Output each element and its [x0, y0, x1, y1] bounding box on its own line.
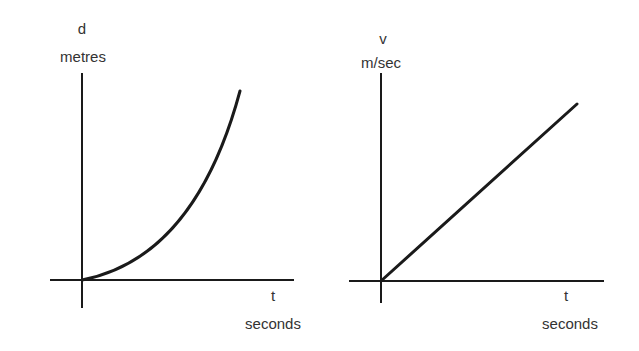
distance-time-chart [50, 73, 294, 308]
right-y-symbol-label: v [379, 31, 387, 46]
left-x-unit-label: seconds [245, 316, 301, 331]
velocity-time-chart [349, 73, 604, 303]
left-x-symbol-label: t [271, 288, 275, 303]
right-x-unit-label: seconds [542, 316, 598, 331]
distance-curve [82, 91, 240, 280]
left-y-unit-label: metres [60, 49, 106, 64]
right-y-unit-label: m/sec [361, 55, 401, 70]
left-y-symbol-label: d [78, 21, 86, 36]
velocity-line [381, 104, 577, 281]
right-x-symbol-label: t [564, 288, 568, 303]
